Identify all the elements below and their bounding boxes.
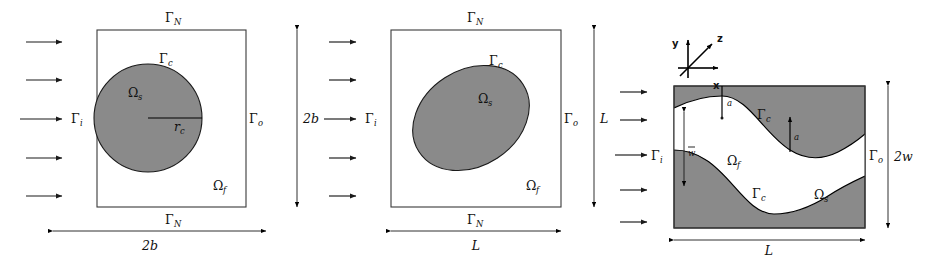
z-axis-label: z <box>717 33 723 44</box>
gamma-N-top-sub-2: N <box>475 17 484 27</box>
label-gamma-N-top: Γ N <box>165 10 182 27</box>
gamma-N-bottom-sub-2: N <box>475 219 484 229</box>
gamma-o-base-3: Γ <box>869 148 878 163</box>
dimension-vertical-panel-3: 2w <box>888 86 913 228</box>
dimension-horizontal-panel-2: L <box>391 231 561 253</box>
gamma-c-sub-2: c <box>498 60 503 70</box>
label-gamma-N-top-panel-2: Γ N <box>467 10 484 27</box>
label-gamma-i-panel-3: Γ i <box>651 148 663 165</box>
omega-s-sub-3: s <box>824 194 829 204</box>
gamma-N-bottom-sub: N <box>173 219 182 229</box>
omega-s-sub: s <box>138 92 143 102</box>
gamma-c-base-2: Γ <box>489 53 498 68</box>
radius-sub: c <box>180 126 185 136</box>
inflow-arrows-panel-2 <box>324 42 356 196</box>
inflow-arrows-panel-1 <box>20 42 62 196</box>
omega-s-base: Ω <box>128 85 138 100</box>
dimension-label-2w: 2w <box>893 149 913 164</box>
mean-halfwidth-label: w <box>688 148 696 158</box>
dimension-label-L-wavy: L <box>764 243 773 257</box>
panel-ellipse: Γ N Γ N Γ i Γ o Γ c Ω s Ω f L <box>324 10 608 253</box>
gamma-c-top-sub-3: c <box>766 114 771 124</box>
panel-wavy: a a w Γ i Γ o Γ c Γ c Ω <box>615 33 913 257</box>
gamma-o-base-2: Γ <box>564 111 573 126</box>
omega-s-base-3: Ω <box>814 187 824 202</box>
dimension-label-2b-v: 2b <box>302 111 319 126</box>
gamma-c-base: Γ <box>159 51 168 66</box>
x-axis-label: x <box>713 80 720 91</box>
gamma-i-base-3: Γ <box>651 148 660 163</box>
label-gamma-o-panel-2: Γ o <box>564 111 578 128</box>
gamma-c-bot-sub-3: c <box>761 193 766 203</box>
gamma-o-sub-3: o <box>878 155 883 165</box>
gamma-c-top-base-3: Γ <box>757 107 766 122</box>
label-gamma-i-panel-1: Γ i <box>71 111 83 128</box>
omega-f-base-2: Ω <box>526 178 536 193</box>
gamma-i-sub-2: i <box>374 118 377 128</box>
z-axis-arrow <box>688 44 712 68</box>
gamma-i-base-2: Γ <box>365 111 374 126</box>
omega-f-base: Ω <box>213 178 223 193</box>
gamma-N-top-base-2: Γ <box>467 10 476 25</box>
dimension-label-L-h: L <box>471 238 480 253</box>
y-axis-label: y <box>672 38 679 49</box>
dimension-label-2b-h: 2b <box>141 238 158 253</box>
axes-triad: x y z <box>672 33 723 91</box>
gamma-o-sub-2: o <box>573 118 578 128</box>
panel-circle: Γ N Γ N Γ i Γ o Γ c Ω s Ω <box>20 10 319 253</box>
gamma-i-sub: i <box>80 118 83 128</box>
z-axis-stub <box>680 68 688 76</box>
gamma-N-bottom-base-2: Γ <box>467 212 476 227</box>
amplitude-label-mid: a <box>794 132 799 142</box>
gamma-N-bottom-base: Γ <box>165 212 174 227</box>
omega-s-sub-2: s <box>488 98 493 108</box>
gamma-i-base: Γ <box>71 111 80 126</box>
gamma-N-top-base: Γ <box>165 10 174 25</box>
schematic-canvas: Γ N Γ N Γ i Γ o Γ c Ω s Ω <box>0 0 936 257</box>
inflow-arrows-panel-3 <box>615 92 647 222</box>
label-gamma-o-panel-1: Γ o <box>249 111 263 128</box>
label-gamma-i-panel-2: Γ i <box>365 111 377 128</box>
gamma-o-base: Γ <box>249 111 258 126</box>
gamma-i-sub-3: i <box>660 155 663 165</box>
amplitude-label-top: a <box>727 98 732 108</box>
label-gamma-o-panel-3: Γ o <box>869 148 883 165</box>
gamma-o-sub: o <box>258 118 263 128</box>
label-gamma-N-bottom-panel-2: Γ N <box>467 212 484 229</box>
dimension-vertical-panel-2: L <box>594 30 608 207</box>
dimension-label-L-v: L <box>599 111 608 126</box>
dimension-horizontal-panel-1: 2b <box>53 231 266 253</box>
omega-f-base-3: Ω <box>727 153 737 168</box>
dimension-vertical-panel-1: 2b <box>297 30 319 207</box>
gamma-c-bot-base-3: Γ <box>752 186 761 201</box>
gamma-N-top-sub: N <box>173 17 182 27</box>
label-gamma-N-bottom: Γ N <box>165 212 182 229</box>
gamma-c-sub: c <box>168 58 173 68</box>
omega-s-base-2: Ω <box>478 91 488 106</box>
figure-root: Γ N Γ N Γ i Γ o Γ c Ω s Ω <box>0 0 936 257</box>
dimension-horizontal-panel-3: L <box>674 240 865 257</box>
